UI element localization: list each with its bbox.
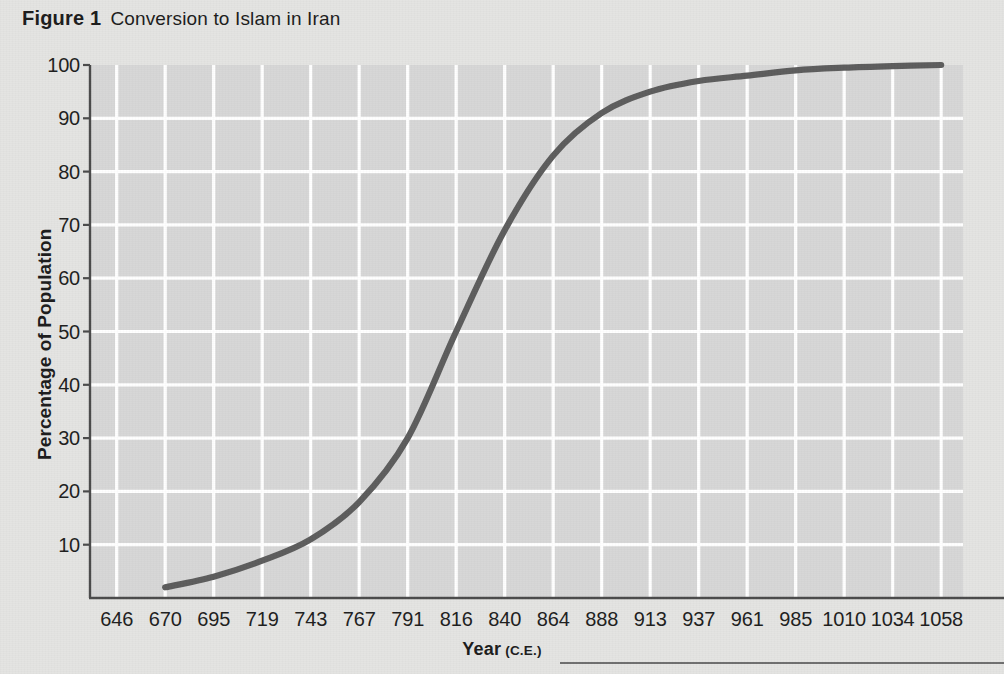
y-tick-label: 100 [20, 54, 80, 77]
y-tick-label: 20 [20, 480, 80, 503]
y-tick-label: 90 [20, 107, 80, 130]
y-axis-title: Percentage of Population [34, 229, 56, 461]
x-tick-label: 1058 [919, 608, 963, 631]
y-tick-label: 10 [20, 533, 80, 556]
x-tick-label: 719 [246, 608, 279, 631]
page-bottom-rule [560, 662, 1004, 664]
x-tick-label: 646 [100, 608, 133, 631]
x-tick-label: 670 [149, 608, 182, 631]
x-tick-label: 767 [343, 608, 376, 631]
x-tick-label: 913 [634, 608, 667, 631]
x-tick-label: 864 [537, 608, 570, 631]
x-tick-label: 695 [197, 608, 230, 631]
x-tick-label: 791 [391, 608, 424, 631]
x-tick-label: 1010 [822, 608, 866, 631]
x-tick-label: 816 [440, 608, 473, 631]
x-tick-label: 840 [488, 608, 521, 631]
chart-area: 102030405060708090100 646670695719743767… [0, 0, 1004, 674]
conversion-line-chart [0, 0, 1004, 674]
x-tick-label: 985 [779, 608, 812, 631]
x-tick-label: 743 [294, 608, 327, 631]
x-tick-label: 888 [585, 608, 618, 631]
x-axis-title: Year(C.E.) [0, 639, 1004, 660]
x-tick-label: 937 [682, 608, 715, 631]
x-tick-label: 1034 [871, 608, 915, 631]
x-axis-title-sub: (C.E.) [505, 643, 541, 658]
x-tick-label: 961 [731, 608, 764, 631]
y-tick-label: 80 [20, 160, 80, 183]
x-axis-title-main: Year [462, 639, 501, 659]
